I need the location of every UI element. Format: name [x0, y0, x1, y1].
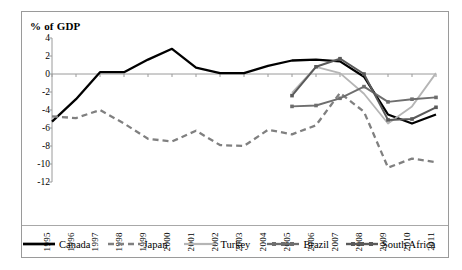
gray-marker-line-swatch [266, 239, 300, 249]
y-tick-label: -4 [42, 105, 50, 115]
y-tick-label: -12 [37, 177, 50, 187]
series-marker [410, 97, 414, 101]
dashed-gray-line-swatch [107, 239, 141, 249]
series-marker [386, 118, 390, 122]
series-marker [434, 106, 438, 110]
chart-legend: CanadaJapanTurkeyBrazilSouth Africa [22, 232, 446, 256]
legend-item-turkey[interactable]: Turkey [183, 239, 250, 250]
legend-item-canada[interactable]: Canada [22, 239, 91, 250]
series-line-south-africa [292, 59, 436, 120]
legend-divider [22, 225, 448, 226]
series-marker [338, 97, 342, 101]
y-tick-label: -10 [37, 159, 50, 169]
y-tick-label: -6 [42, 123, 50, 133]
series-lines [52, 38, 436, 182]
series-line-japan [52, 93, 436, 168]
dark-gray-marker-line-swatch [345, 239, 379, 249]
legend-item-south-africa[interactable]: South Africa [345, 239, 435, 250]
series-marker [314, 104, 318, 108]
series-marker [434, 96, 438, 100]
legend-item-brazil[interactable]: Brazil [266, 239, 329, 250]
y-tick-label: -2 [42, 87, 50, 97]
series-marker [338, 57, 342, 61]
legend-label: Japan [144, 239, 168, 250]
legend-label: Turkey [220, 239, 250, 250]
series-marker [362, 85, 366, 89]
legend-label: Brazil [303, 239, 329, 250]
legend-item-japan[interactable]: Japan [107, 239, 168, 250]
series-marker [290, 94, 294, 98]
series-marker [362, 72, 366, 76]
series-marker [290, 105, 294, 109]
y-axis-tick-labels: 420-2-4-6-8-10-12 [22, 30, 50, 190]
series-marker [410, 117, 414, 121]
solid-black-line-swatch [22, 239, 56, 249]
series-marker [314, 65, 318, 69]
series-marker [386, 100, 390, 104]
chart-container: % of GDP 420-2-4-6-8-10-12 1995199619971… [0, 0, 462, 270]
light-gray-line-swatch [183, 239, 217, 249]
plot-area [52, 38, 436, 182]
y-tick-label: -8 [42, 141, 50, 151]
legend-label: South Africa [382, 239, 435, 250]
legend-label: Canada [59, 239, 91, 250]
